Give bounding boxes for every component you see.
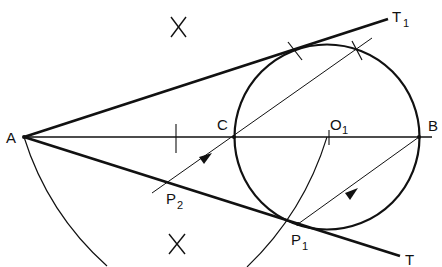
- label-O: O: [330, 116, 342, 133]
- point-A: [22, 135, 26, 139]
- point-B: [417, 135, 421, 139]
- cross-mark-top: [171, 17, 186, 37]
- tangent-construction-diagram: A C B O 1 T 1 T P 2 P 1: [0, 0, 442, 267]
- label-T: T: [405, 251, 414, 267]
- cross-mark-bottom: [169, 234, 185, 254]
- label-P1-sub: 1: [302, 240, 308, 252]
- arc-through-P1: [247, 137, 327, 267]
- label-A: A: [6, 129, 16, 146]
- label-P2-sub: 2: [177, 199, 183, 211]
- label-T1-sub: 1: [403, 17, 409, 29]
- label-O-sub: 1: [342, 124, 348, 136]
- arrowhead-icon: [199, 153, 212, 164]
- point-P1: [296, 222, 300, 226]
- arc-centered-A: [24, 137, 107, 266]
- label-P1: P: [291, 231, 301, 248]
- label-T1: T: [392, 8, 401, 25]
- label-B: B: [428, 117, 438, 134]
- label-C: C: [217, 116, 228, 133]
- point-C: [232, 135, 236, 139]
- label-P2: P: [166, 190, 176, 207]
- line-P1-B: [298, 137, 419, 224]
- arrowhead-icon: [345, 188, 358, 200]
